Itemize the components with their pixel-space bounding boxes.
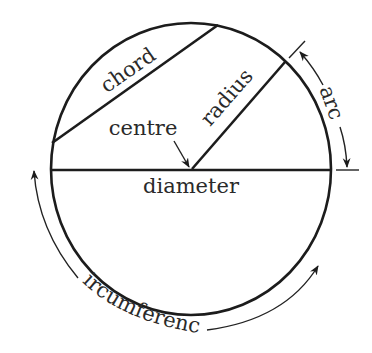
centre-label: centre	[109, 116, 178, 140]
arc-label: arc	[314, 82, 348, 122]
circumference-left-arrow-icon	[34, 171, 78, 278]
radius-label: radius	[196, 64, 258, 130]
diameter-label: diameter	[143, 174, 240, 198]
circumference-right-arrow-icon	[207, 266, 318, 330]
centre-arrow-icon	[174, 141, 189, 167]
circle-parts-diagram: chord radius centre diameter arc circumf…	[0, 0, 372, 353]
arc-bottom-arrow-icon	[340, 127, 347, 167]
